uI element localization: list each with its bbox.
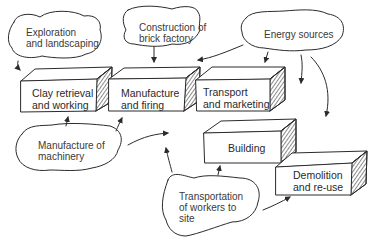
label-line: Construction of — [139, 22, 206, 33]
arrow-energy-manufacture — [198, 45, 243, 60]
input-energy-label: Energy sources — [264, 29, 333, 40]
label-line: Manufacture of — [38, 140, 105, 151]
arrow-workers-building — [166, 148, 172, 172]
arrow-machinery-manufacture — [116, 118, 122, 131]
diagram-canvas: Exploration and landscaping Construction… — [0, 0, 381, 249]
arrow-energy-building — [301, 55, 302, 83]
stage-building-label: Building — [228, 143, 265, 155]
arrow-energy-demolition — [311, 57, 328, 116]
label-line: and marketing — [203, 99, 270, 111]
label-line: machinery — [38, 151, 105, 162]
input-exploration-label: Exploration and landscaping — [26, 27, 99, 49]
stage-clay-label: Clay retrieval and working — [32, 88, 93, 111]
label-line: Demolition — [293, 170, 343, 182]
label-line: site — [179, 213, 243, 224]
input-construction-label: Construction of brick factory — [139, 22, 206, 44]
label-line: Manufacture — [121, 88, 179, 100]
label-line: Exploration — [26, 27, 99, 38]
stage-manufacture-label: Manufacture and firing — [121, 88, 179, 111]
label-line: Transport — [203, 87, 270, 99]
label-line: Transportation — [179, 191, 243, 202]
stage-box-building — [204, 119, 296, 163]
stage-demolition-label: Demolition and re-use — [293, 170, 343, 193]
stage-transport-label: Transport and marketing — [203, 87, 270, 110]
arrow-workers-demolition — [263, 197, 290, 210]
label-line: and landscaping — [26, 38, 99, 49]
label-line: and firing — [121, 100, 179, 112]
label-line: Building — [228, 143, 265, 155]
label-line: of workers to — [179, 202, 243, 213]
arrow-workers-building2 — [218, 166, 220, 175]
arrow-energy-transport — [265, 52, 268, 62]
label-line: brick factory — [139, 33, 206, 44]
label-line: and re-use — [293, 182, 343, 194]
arrow-machinery-building — [128, 133, 168, 145]
arrow-exploration-clay — [18, 61, 20, 70]
input-workers-label: Transportation of workers to site — [179, 191, 243, 224]
arrow-machinery-clay — [66, 117, 68, 126]
label-line: and working — [32, 100, 93, 112]
label-line: Clay retrieval — [32, 88, 93, 100]
label-line: Energy sources — [264, 29, 333, 40]
input-machinery-label: Manufacture of machinery — [38, 140, 105, 162]
